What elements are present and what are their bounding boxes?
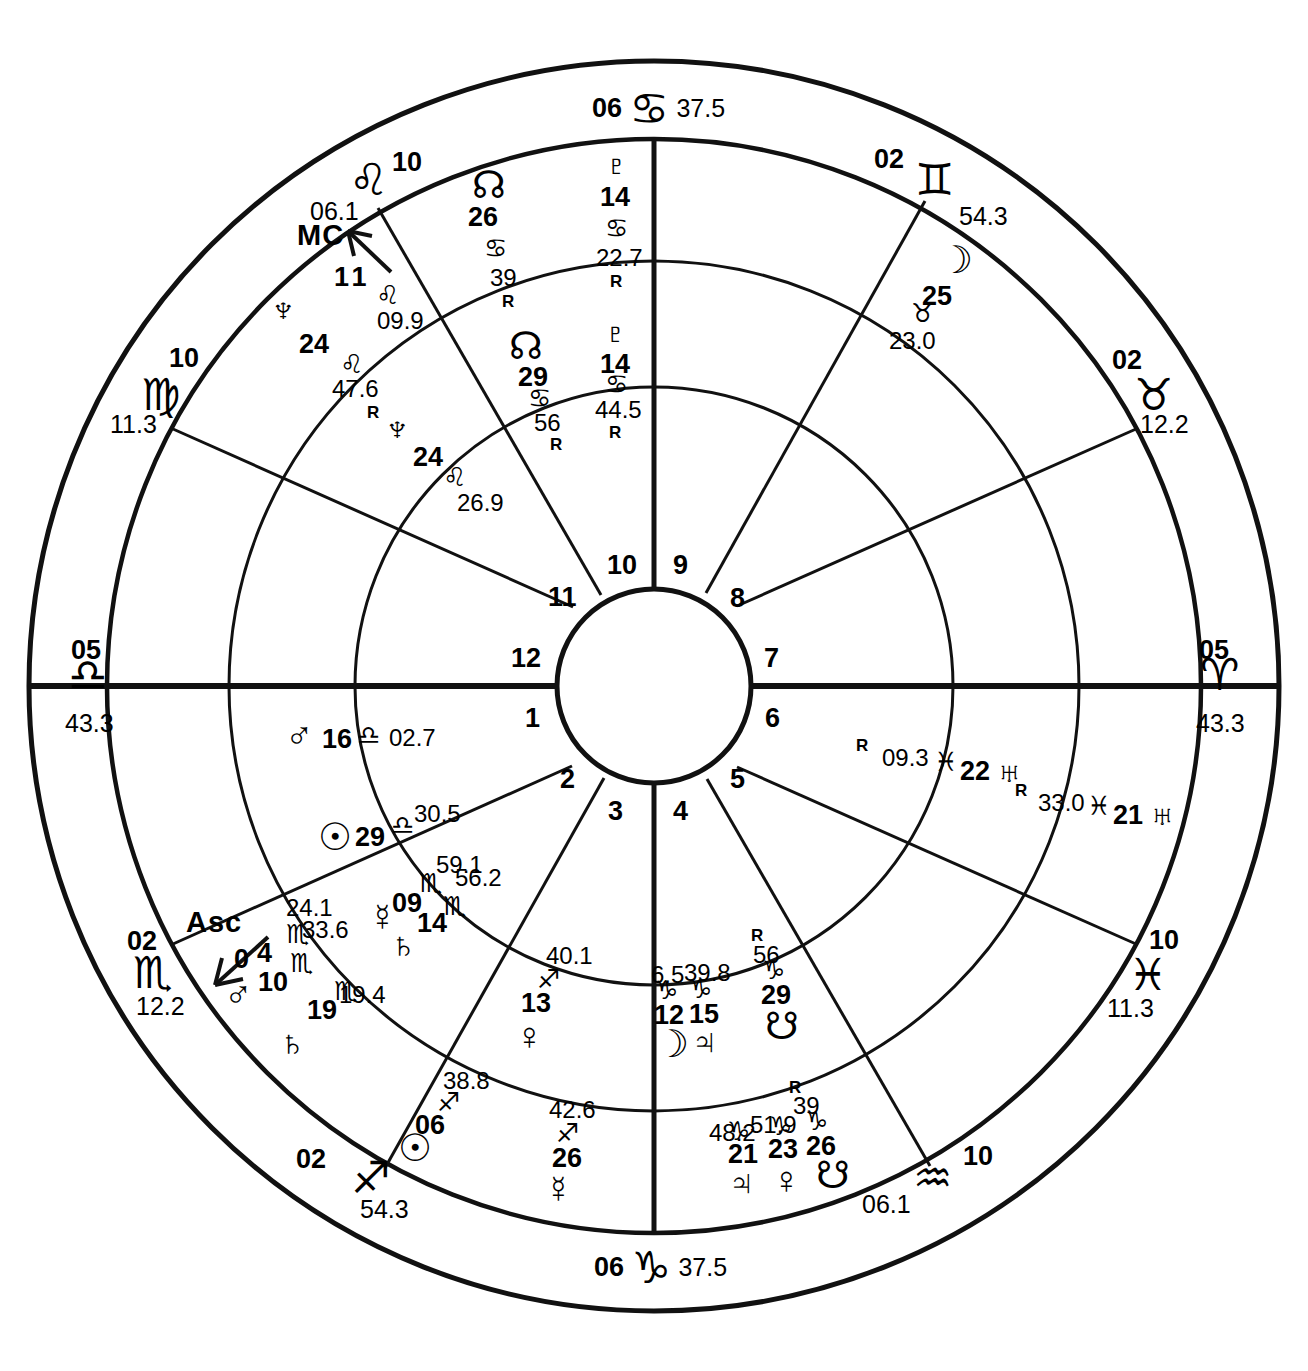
pluto-glyph-icon: ♇ <box>602 148 643 182</box>
sun-glyph-icon: ☉ <box>318 820 352 854</box>
cusp-4-minute: 37.5 <box>678 1253 727 1281</box>
outer-north-node-minute: 39 <box>490 264 517 292</box>
outer-mercury-degree: 26 <box>552 1145 582 1172</box>
house-number-3: 3 <box>608 798 623 825</box>
chart-wheel <box>0 0 1308 1371</box>
cusp-8-minute: 12.2 <box>1140 412 1189 437</box>
inner-saturn-minute: 56.2 <box>455 866 502 890</box>
taurus-glyph-icon: ♉ <box>1134 375 1173 415</box>
house-number-2: 2 <box>560 766 575 793</box>
leo-glyph-icon: ♌ <box>376 282 399 308</box>
cancer-glyph-icon: ♋ <box>605 371 628 397</box>
outer-uranus-degree: 22 <box>960 758 990 785</box>
inner-moon-degree: 12 <box>654 1002 684 1029</box>
cancer-glyph-icon: ♋ <box>484 233 517 264</box>
outer-sun-minute: 38.8 <box>443 1069 490 1093</box>
cusp-10-degree: 06 <box>592 93 622 123</box>
pluto-glyph-icon: ♇ <box>601 316 630 350</box>
cancer-glyph-icon: ♋ <box>605 213 643 244</box>
gemini-glyph-icon: ♊ <box>915 160 954 200</box>
retrograde-icon: R <box>550 436 562 453</box>
cusp-2-minute: 12.2 <box>136 994 185 1019</box>
venus-glyph-icon: ♀ <box>772 1163 801 1197</box>
outer-mars2-degree: 10 <box>258 969 288 996</box>
outer-saturn-minute: 19.4 <box>339 983 386 1007</box>
outer-asc-degree-4: 4 <box>257 940 272 967</box>
pisces-glyph-icon: ♓ <box>934 749 957 775</box>
house-number-9: 9 <box>673 552 688 579</box>
cusp-3-minute: 54.3 <box>360 1197 409 1222</box>
inner-uranus-degree: 21 <box>1113 802 1143 829</box>
house-number-11: 11 <box>548 584 577 611</box>
house-number-1: 1 <box>525 705 540 732</box>
retrograde-icon: R <box>751 927 763 944</box>
cusp-4-degree: 06 <box>594 1252 624 1282</box>
cusp-label-4: 06 ♑ 37.5 <box>594 1248 727 1288</box>
retrograde-icon: R <box>610 272 643 292</box>
inner-venus-degree: 13 <box>521 990 551 1017</box>
retrograde-icon: R <box>609 424 621 441</box>
cusp-line-9 <box>706 201 925 593</box>
outer-saturn-degree: 19 <box>307 997 337 1024</box>
cusp-1-minute: 43.3 <box>65 711 114 736</box>
retrograde-icon: R <box>856 737 868 754</box>
mars-glyph-icon: ♂ <box>285 717 314 751</box>
mars-glyph-icon: ♂ <box>224 976 253 1010</box>
retrograde-icon: R <box>789 1079 801 1096</box>
outer-mars2-minute: 33.6 <box>302 918 349 942</box>
outer-pluto: ♇ 14 ♋ 22.7 R <box>600 148 643 292</box>
outer-asc-degree-0: 0 <box>234 946 249 973</box>
cusp-12-degree: 10 <box>169 345 199 372</box>
cusp-line-8 <box>737 429 1136 606</box>
outer-mars-minute: 02.7 <box>389 726 436 750</box>
mc-label: MC <box>297 221 344 250</box>
outer-venus-minute: 51.9 <box>750 1113 797 1137</box>
outer-pluto-minute: 22.7 <box>596 244 643 272</box>
inner-pluto-minute: 44.5 <box>595 398 642 422</box>
house-number-12: 12 <box>511 645 541 672</box>
asc-label: Asc <box>186 908 242 937</box>
outer-mc-degree: 11 <box>334 264 371 291</box>
moon-glyph-icon: ☽ <box>939 243 973 277</box>
cusp-11-degree: 10 <box>392 149 422 176</box>
taurus-glyph-icon: ♉ <box>911 300 934 326</box>
cusp-label-10: 06 ♋ 37.5 <box>592 89 725 129</box>
leo-glyph-icon: ♌ <box>340 351 363 377</box>
house-cusp-lines <box>29 139 1279 1233</box>
sagittarius-glyph-icon: ♐ <box>556 1120 579 1146</box>
cusp-6-minute: 11.3 <box>1107 996 1154 1021</box>
neptune-glyph-icon: ♆ <box>383 411 412 445</box>
libra-glyph-icon: ♎ <box>391 812 414 838</box>
outer-moon-minute: 23.0 <box>889 329 936 353</box>
virgo-glyph-icon: ♍ <box>141 375 180 415</box>
house-number-10: 10 <box>607 552 637 579</box>
libra-glyph-icon: ♎ <box>357 722 380 748</box>
scorpio-glyph-icon: ♏ <box>443 893 466 919</box>
uranus-glyph-icon: ♅ <box>1148 798 1177 832</box>
cusp-5-minute: 06.1 <box>862 1192 911 1217</box>
house-number-5: 5 <box>730 766 745 793</box>
cusp-9-degree: 02 <box>874 146 904 173</box>
venus-glyph-icon: ♀ <box>515 1019 544 1053</box>
scorpio-glyph-icon: ♏ <box>133 953 172 993</box>
north-node-glyph-icon: ☊ <box>472 168 517 202</box>
house-number-6: 6 <box>765 705 780 732</box>
pisces-glyph-icon: ♓ <box>1087 793 1110 819</box>
neptune-glyph-icon: ♆ <box>269 292 298 326</box>
aquarius-glyph-icon: ♒ <box>913 1158 952 1198</box>
inner-jupiter-minute: 39.8 <box>684 961 731 985</box>
retrograde-icon: R <box>502 292 517 312</box>
pisces-glyph-icon: ♓ <box>1128 955 1167 995</box>
moon-glyph-icon: ☽ <box>655 1027 689 1061</box>
jupiter-glyph-icon: ♃ <box>690 1025 719 1059</box>
outer-uranus-minute: 09.3 <box>882 746 929 770</box>
outer-mercury-minute: 42.6 <box>549 1098 596 1122</box>
north-node-glyph-icon: ☊ <box>509 329 543 363</box>
sagittarius-glyph-icon: ♐ <box>351 1158 390 1198</box>
inner-south-node-degree: 29 <box>761 982 791 1009</box>
leo-glyph-icon: ♌ <box>349 160 388 200</box>
scorpio-glyph-icon: ♏ <box>290 950 313 976</box>
cusp-10-minute: 37.5 <box>676 94 725 122</box>
retrograde-icon: R <box>1015 782 1027 799</box>
sagittarius-glyph-icon: ♐ <box>537 966 560 992</box>
